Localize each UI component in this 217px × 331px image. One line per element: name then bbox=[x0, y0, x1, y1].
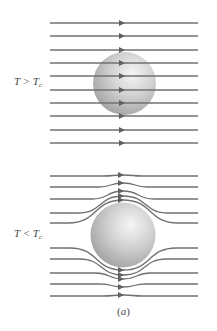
field-line bbox=[50, 284, 198, 287]
label-relation: > bbox=[23, 75, 30, 87]
arrow-icon bbox=[119, 127, 125, 133]
arrow-icon bbox=[118, 197, 124, 203]
label-normal-state: T > Tc bbox=[14, 75, 42, 89]
arrow-icon bbox=[118, 172, 124, 178]
label-subscript: c bbox=[39, 81, 42, 89]
arrow-icon bbox=[118, 292, 124, 298]
label-var: T bbox=[14, 227, 20, 239]
label-subscript: c bbox=[39, 233, 42, 241]
panel-superconducting-state bbox=[50, 172, 198, 298]
arrow-icon bbox=[118, 267, 124, 273]
superconductor-sphere bbox=[91, 203, 156, 268]
label-superconducting-state: T < Tc bbox=[14, 227, 42, 241]
label-relation: < bbox=[23, 227, 30, 239]
arrow-icon bbox=[119, 20, 125, 26]
field-line bbox=[50, 273, 198, 279]
arrow-icon bbox=[119, 33, 125, 39]
field-line bbox=[50, 183, 198, 187]
field-line bbox=[50, 295, 198, 296]
caption-letter: a bbox=[121, 305, 127, 317]
figure-caption: (a) bbox=[117, 305, 130, 317]
panel-normal-state bbox=[50, 20, 198, 146]
field-line bbox=[50, 175, 198, 176]
arrow-icon bbox=[119, 140, 125, 146]
arrow-icon bbox=[118, 188, 124, 194]
label-var: T bbox=[14, 75, 20, 87]
meissner-effect-figure bbox=[0, 0, 217, 331]
field-line bbox=[50, 191, 198, 199]
arrow-icon bbox=[118, 284, 124, 290]
arrow-icon bbox=[118, 276, 124, 282]
superconductor-sphere bbox=[93, 52, 156, 115]
arrow-icon bbox=[118, 180, 124, 186]
